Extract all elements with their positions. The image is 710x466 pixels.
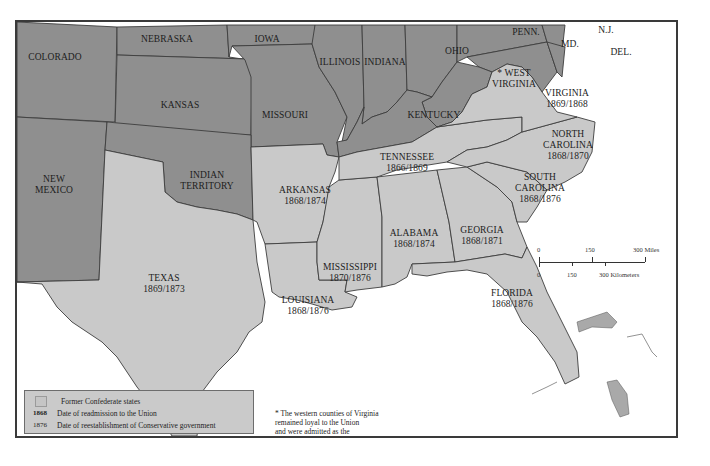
scale-tick (605, 262, 606, 266)
scale-miles-300: 300 Miles (633, 246, 659, 253)
map-legend: Former Confederate states 1868 Date of r… (24, 390, 254, 434)
label-tennessee: TENNESSEE1866/1869 (380, 152, 434, 174)
island-bahamas-grand (577, 312, 617, 332)
label-kansas: KANSAS (161, 100, 200, 111)
label-georgia: GEORGIA1868/1871 (460, 225, 503, 247)
scale-tick (592, 257, 593, 262)
map-canvas (17, 22, 676, 436)
scale-bar: 0 150 300 Miles 0 150 300 Kilometers (537, 244, 657, 284)
legend-item-conservative: 1876 Date of reestablishment of Conserva… (33, 419, 245, 431)
reconstruction-map: COLORADO NEBRASKA IOWA ILLINOIS INDIANA … (15, 20, 678, 438)
scale-km-150: 150 (567, 271, 577, 278)
label-north-carolina: NORTHCAROLINA1868/1870 (543, 129, 593, 162)
west-virginia-footnote: * The western counties of Virginia remai… (275, 409, 425, 438)
label-new-mexico: NEWMEXICO (35, 174, 73, 196)
scale-tick (539, 257, 540, 267)
confederate-swatch-icon (35, 396, 47, 407)
label-indian-territory: INDIANTERRITORY (180, 170, 234, 192)
label-ohio: OHIO (445, 46, 469, 57)
label-nebraska: NEBRASKA (141, 34, 193, 45)
legend-item-readmission: 1868 Date of readmission to the Union (33, 407, 245, 419)
scale-km-300: 300 Kilometers (599, 271, 639, 278)
island-keys (532, 382, 557, 394)
island-bahamas-andros (607, 380, 629, 417)
state-kansas (115, 55, 252, 135)
label-illinois: ILLINOIS (320, 57, 361, 68)
label-virginia: VIRGINIA1869/1868 (545, 88, 589, 110)
label-penn: PENN. (512, 27, 540, 38)
scale-miles-150: 150 (585, 246, 595, 253)
label-iowa: IOWA (254, 34, 279, 45)
state-colorado (17, 22, 117, 122)
label-missouri: MISSOURI (262, 110, 308, 121)
scale-line (539, 262, 645, 263)
label-louisiana: LOUISIANA1868/1876 (282, 295, 335, 317)
scale-tick (572, 262, 573, 266)
label-alabama: ALABAMA1868/1874 (390, 228, 439, 250)
legend-item-confederate: Former Confederate states (33, 395, 245, 407)
label-del: DEL. (610, 47, 631, 58)
scale-km-0: 0 (537, 271, 540, 278)
label-arkansas: ARKANSAS1868/1874 (279, 185, 331, 207)
label-nj: N.J. (598, 25, 614, 36)
label-kentucky: KENTUCKY (407, 110, 460, 121)
label-texas: TEXAS1869/1873 (143, 273, 185, 295)
label-indiana: INDIANA (364, 57, 405, 68)
label-md: MD. (561, 39, 579, 50)
label-florida: FLORIDA1868/1876 (491, 288, 533, 310)
label-mississippi: MISSISSIPPI1870/1876 (323, 262, 377, 284)
scale-tick (645, 257, 646, 262)
label-west-virginia: * WESTVIRGINIA (492, 68, 536, 90)
island-bahamas-chain (627, 334, 657, 357)
scale-miles-0: 0 (537, 246, 540, 253)
label-south-carolina: SOUTHCAROLINA1868/1876 (515, 172, 565, 205)
label-colorado: COLORADO (28, 52, 82, 63)
state-new-mexico (17, 117, 107, 282)
